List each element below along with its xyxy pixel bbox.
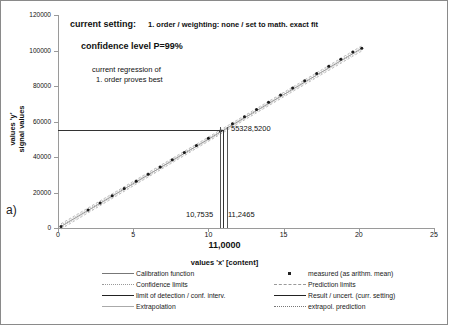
current-setting-label: current setting: (70, 19, 136, 29)
measured-point (135, 180, 138, 183)
measured-point (111, 194, 114, 197)
legend-item: Extrapolation (100, 301, 250, 312)
current-setting-value: 1. order / weighting: none / set to math… (148, 20, 318, 29)
legend-key-line-solid-thick-icon (100, 290, 136, 301)
chart-legend: Calibration functionConfidence limitslim… (100, 268, 440, 318)
legend-item: Confidence limits (100, 279, 250, 290)
legend-key-line-dashed-icon (272, 279, 308, 290)
legend-item: Prediction limits (272, 279, 447, 290)
measured-point (315, 72, 318, 75)
measured-point (267, 101, 270, 104)
measured-point (123, 187, 126, 190)
legend-item: measured (as arithm. mean) (272, 268, 447, 279)
measured-point (171, 158, 174, 161)
legend-line-swatch (274, 306, 306, 307)
measured-point (279, 94, 282, 97)
measured-point (207, 137, 210, 140)
legend-label: Calibration function (136, 270, 194, 277)
legend-line-swatch (274, 295, 306, 296)
uncertainty-line-low (220, 127, 221, 228)
result-x-value: 11,0000 (0, 240, 449, 250)
regression-note: current regression of 1. order proves be… (92, 65, 163, 85)
legend-line-swatch (102, 306, 134, 307)
measured-point (291, 86, 294, 89)
measured-point (351, 50, 354, 53)
measured-point (327, 65, 330, 68)
result-horizontal-line (58, 130, 223, 131)
measured-point (303, 79, 306, 82)
legend-key-line-dots-sparse-icon (272, 301, 308, 312)
legend-key-line-solid-thin-icon (100, 268, 136, 279)
legend-label: limit of detection / conf. interv. (136, 292, 225, 299)
measured-point (360, 47, 363, 50)
legend-line-swatch (274, 284, 306, 285)
legend-column-left: Calibration functionConfidence limitslim… (100, 268, 250, 312)
measured-point (99, 201, 102, 204)
legend-label: Extrapolation (136, 303, 176, 310)
measured-point (147, 173, 150, 176)
measured-point (60, 225, 63, 228)
result-vertical-line (223, 130, 224, 228)
legend-line-swatch (102, 273, 134, 274)
legend-item: Result / uncert. (curr. setting) (272, 290, 447, 301)
legend-key-marker-point-icon (272, 268, 308, 279)
measured-point (87, 209, 90, 212)
measured-point (255, 108, 258, 111)
measured-point (339, 58, 342, 61)
measured-point (159, 165, 162, 168)
confidence-level-label: confidence level P=99% (81, 41, 183, 51)
legend-label: Prediction limits (308, 281, 356, 288)
regression-note-line1: current regression of (92, 65, 163, 75)
legend-column-right: measured (as arithm. mean)Prediction lim… (272, 268, 447, 312)
result-x-low-value: 10,7535 (186, 210, 213, 219)
legend-key-line-solid-light-icon (100, 301, 136, 312)
legend-key-line-solid-thick-icon (272, 290, 308, 301)
legend-label: extrapol. prediction (308, 303, 365, 310)
legend-line-swatch (102, 284, 134, 285)
measured-point (243, 115, 246, 118)
measured-point (183, 151, 186, 154)
chart-figure: a) values 'y' signal values values 'x' [… (0, 0, 449, 326)
legend-label: Confidence limits (136, 281, 188, 288)
legend-item: Calibration function (100, 268, 250, 279)
legend-key-line-dotted-icon (100, 279, 136, 290)
legend-label: measured (as arithm. mean) (308, 270, 393, 277)
legend-item: extrapol. prediction (272, 301, 447, 312)
legend-line-swatch (102, 295, 134, 296)
result-y-value: 55328,5200 (231, 124, 271, 133)
legend-label: Result / uncert. (curr. setting) (308, 292, 395, 299)
legend-item: limit of detection / conf. interv. (100, 290, 250, 301)
regression-note-line2: 1. order proves best (92, 75, 163, 85)
result-x-high-value: 11,2465 (228, 210, 255, 219)
legend-marker-icon (288, 272, 291, 275)
measured-point (195, 144, 198, 147)
